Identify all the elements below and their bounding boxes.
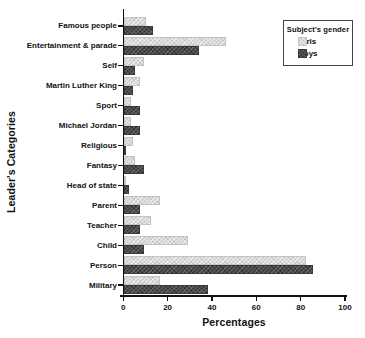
x-axis-title: Percentages bbox=[202, 316, 266, 328]
x-tick-mark bbox=[123, 297, 124, 301]
y-tick-mark bbox=[118, 284, 123, 285]
category-label: Michael Jordan bbox=[0, 121, 117, 130]
x-tick-label: 60 bbox=[252, 303, 261, 312]
legend-items: GirlsBoys bbox=[284, 37, 352, 58]
y-tick-mark bbox=[118, 225, 123, 226]
bar-girls-famous-people bbox=[124, 17, 146, 26]
x-tick-mark bbox=[300, 297, 301, 301]
bar-boys-famous-people bbox=[124, 26, 153, 35]
y-tick-mark bbox=[118, 105, 123, 106]
bar-boys-sport bbox=[124, 106, 140, 115]
bar-girls-sport bbox=[124, 97, 131, 106]
category-label: Parent bbox=[0, 201, 117, 210]
legend-swatch-boys bbox=[298, 49, 307, 58]
x-tick-mark bbox=[256, 297, 257, 301]
bar-boys-religious bbox=[124, 146, 126, 155]
y-tick-mark bbox=[118, 45, 123, 46]
legend-title: Subject's gender bbox=[284, 25, 352, 34]
bar-boys-child bbox=[124, 245, 144, 254]
y-tick-mark bbox=[118, 125, 123, 126]
category-label: Religious bbox=[0, 141, 117, 150]
bar-girls-person bbox=[124, 256, 306, 265]
x-tick-mark bbox=[167, 297, 168, 301]
bar-girls-martin-luther-king bbox=[124, 77, 140, 86]
y-tick-mark bbox=[118, 85, 123, 86]
y-tick-mark bbox=[118, 165, 123, 166]
x-tick-mark bbox=[211, 297, 212, 301]
category-label: Sport bbox=[0, 101, 117, 110]
legend-item-girls: Girls bbox=[298, 37, 352, 46]
category-label: Entertainment & parade bbox=[0, 41, 117, 50]
category-label: Child bbox=[0, 241, 117, 250]
y-tick-mark bbox=[118, 25, 123, 26]
x-tick-label: 0 bbox=[121, 303, 125, 312]
y-tick-mark bbox=[118, 65, 123, 66]
x-axis-line bbox=[120, 295, 347, 297]
bar-girls-entertainment-parade bbox=[124, 37, 226, 46]
y-tick-mark bbox=[118, 265, 123, 266]
bar-girls-head-of-state bbox=[124, 176, 126, 185]
y-tick-mark bbox=[118, 205, 123, 206]
bar-boys-head-of-state bbox=[124, 185, 128, 194]
category-label: Person bbox=[0, 261, 117, 270]
bar-boys-self bbox=[124, 66, 135, 75]
bar-girls-michael-jordan bbox=[124, 117, 131, 126]
bar-boys-entertainment-parade bbox=[124, 46, 199, 55]
bar-boys-parent bbox=[124, 205, 140, 214]
x-tick-label: 100 bbox=[338, 303, 351, 312]
figure: Leader's Categories Percentages Famous p… bbox=[0, 0, 365, 338]
category-label: Military bbox=[0, 281, 117, 290]
bar-girls-military bbox=[124, 276, 159, 285]
bar-girls-fantasy bbox=[124, 156, 135, 165]
bar-boys-martin-luther-king bbox=[124, 86, 133, 95]
bar-girls-religious bbox=[124, 137, 133, 146]
y-tick-mark bbox=[118, 245, 123, 246]
category-label: Famous people bbox=[0, 21, 117, 30]
bar-girls-child bbox=[124, 236, 188, 245]
bar-boys-person bbox=[124, 265, 312, 274]
x-tick-label: 20 bbox=[163, 303, 172, 312]
category-label: Teacher bbox=[0, 221, 117, 230]
category-label: Head of state bbox=[0, 181, 117, 190]
bar-boys-teacher bbox=[124, 225, 140, 234]
x-tick-label: 40 bbox=[208, 303, 217, 312]
bar-girls-self bbox=[124, 57, 144, 66]
bar-boys-michael-jordan bbox=[124, 126, 140, 135]
y-tick-mark bbox=[118, 185, 123, 186]
legend-swatch-girls bbox=[298, 37, 307, 46]
bar-boys-military bbox=[124, 285, 208, 294]
legend-item-boys: Boys bbox=[298, 49, 352, 58]
legend: Subject's gender GirlsBoys bbox=[283, 20, 353, 66]
x-tick-label: 80 bbox=[296, 303, 305, 312]
category-label: Martin Luther King bbox=[0, 81, 117, 90]
category-label: Fantasy bbox=[0, 161, 117, 170]
category-label: Self bbox=[0, 61, 117, 70]
bar-girls-parent bbox=[124, 196, 159, 205]
bar-boys-fantasy bbox=[124, 165, 144, 174]
bar-girls-teacher bbox=[124, 216, 151, 225]
y-tick-mark bbox=[118, 145, 123, 146]
x-tick-mark bbox=[344, 297, 345, 301]
